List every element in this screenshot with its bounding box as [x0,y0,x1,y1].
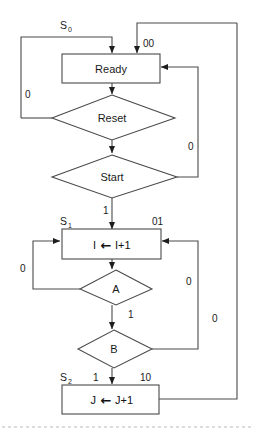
node-cond-b: B [78,330,152,368]
edge-label-reset-false: 0 [25,89,31,100]
edge-label-cond-b-true: 1 [93,372,99,383]
node-incr-i: I ← I+1 [62,229,161,259]
state-label-s2-subscript: 2 [68,378,72,385]
node-start: Start [52,155,177,198]
edge-label-incr-j-output: 10 [140,372,152,383]
edge-label-cond-b-false: 0 [186,276,192,287]
edge-label-start-true: 1 [103,205,109,216]
node-ready-label: Ready [95,63,127,75]
node-start-label: Start [100,171,123,183]
state-label-s2: S 2 [60,371,72,385]
node-incr-i-left: I [93,239,96,251]
node-cond-a-label: A [112,283,120,295]
state-label-s1-subscript: 1 [68,222,72,229]
state-label-s0: S 0 [60,19,72,33]
state-label-s2-letter: S [60,371,67,383]
node-cond-b-label: B [110,343,117,355]
node-incr-j-assign-arrow-icon: ← [101,393,112,408]
node-reset-label: Reset [98,112,127,124]
node-incr-j-left: J [91,394,97,406]
edge-label-cond-a-false: 0 [20,263,26,274]
node-incr-i-right: I+1 [115,239,131,251]
edge-label-cond-a-true: 1 [128,309,134,320]
edge-label-incr-i-output: 01 [152,216,164,227]
edge-start-false [161,67,198,177]
node-incr-i-assign-arrow-icon: ← [101,238,112,253]
edge-label-start-false: 0 [188,141,194,152]
state-label-s0-subscript: 0 [68,26,72,33]
node-ready: Ready [62,54,160,83]
node-incr-j: J ← J+1 [62,385,159,414]
node-reset: Reset [52,95,175,140]
node-cond-a: A [80,270,152,305]
node-incr-j-right: J+1 [115,394,133,406]
state-label-s0-letter: S [60,19,67,31]
state-label-s1: S 1 [60,215,72,229]
edge-label-outer-return: 0 [212,313,218,324]
edge-label-ready-output: 00 [143,38,155,49]
flowchart-canvas: Ready Reset Start I ← I+1 A B [0,0,254,440]
state-label-s1-letter: S [60,215,67,227]
